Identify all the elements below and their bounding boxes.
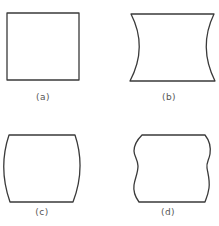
panel-c-convex-shape	[4, 135, 80, 202]
panel-b-concave-shape	[130, 14, 215, 81]
panel-c-label: (c)	[35, 207, 48, 217]
panel-d-label: (d)	[161, 207, 175, 217]
distortion-figure	[0, 0, 219, 226]
panel-a-square	[7, 13, 79, 80]
panel-a-label: (a)	[36, 92, 50, 102]
panel-b-label: (b)	[162, 92, 176, 102]
panel-d-wavy-shape	[134, 135, 210, 202]
